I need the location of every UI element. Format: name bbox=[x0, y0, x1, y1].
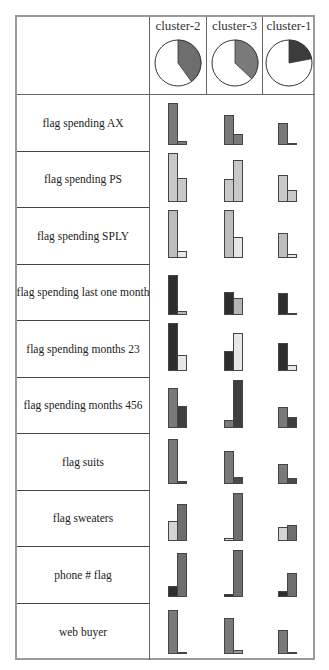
bar-cluster-2-b bbox=[177, 355, 187, 371]
bar-cluster-2-b bbox=[177, 406, 187, 428]
row-label: flag suits bbox=[17, 434, 150, 491]
bar-cluster-1-b bbox=[287, 313, 297, 315]
row-label: flag spending months 23 bbox=[17, 321, 150, 378]
pie-cluster-1 bbox=[264, 38, 314, 88]
bar-cluster-1-a bbox=[278, 123, 288, 145]
bar-cluster-3-b bbox=[233, 493, 243, 541]
bar-cluster-2-b bbox=[177, 553, 187, 597]
bar-cluster-3-b bbox=[233, 333, 243, 371]
header-cluster-1: cluster-1 bbox=[263, 17, 315, 95]
row-label: flag spending PS bbox=[17, 152, 150, 209]
row-label: flag spending AX bbox=[17, 95, 150, 152]
cluster-label: cluster-2 bbox=[150, 18, 206, 34]
cluster-label: cluster-3 bbox=[207, 18, 262, 34]
bar-cluster-2-b bbox=[177, 481, 187, 484]
bar-cluster-2-a bbox=[168, 439, 178, 484]
pie-cluster-3 bbox=[210, 38, 260, 88]
bar-cluster-3-b bbox=[233, 160, 243, 202]
bar-cluster-2-b bbox=[177, 141, 187, 145]
bar-cluster-3-b bbox=[233, 477, 243, 484]
bar-cluster-2-b bbox=[177, 251, 187, 258]
bar-cluster-1-a bbox=[278, 630, 288, 654]
row-label: flag spending last one month bbox=[17, 265, 150, 322]
bar-cluster-2-b bbox=[177, 652, 187, 654]
pie-slice bbox=[289, 40, 312, 63]
bar-cluster-1-b bbox=[287, 652, 297, 654]
bar-cluster-1-b bbox=[287, 525, 297, 541]
bar-cluster-1-b bbox=[287, 143, 297, 145]
cluster-profile-table: cluster-2 cluster-3 cluster-1 flag spend… bbox=[15, 15, 315, 660]
bar-cluster-1-b bbox=[287, 573, 297, 597]
bar-cluster-3-b bbox=[233, 134, 243, 145]
bar-cluster-3-b bbox=[233, 380, 243, 428]
bars-area bbox=[150, 95, 315, 660]
bar-cluster-1-b bbox=[287, 254, 297, 258]
bar-cluster-3-b bbox=[233, 237, 243, 258]
header-corner bbox=[17, 17, 150, 95]
bar-cluster-2-a bbox=[168, 275, 178, 315]
row-label: flag spending SPLY bbox=[17, 208, 150, 265]
bar-cluster-1-b bbox=[287, 365, 297, 371]
header-cluster-3: cluster-3 bbox=[207, 17, 263, 95]
bar-cluster-3-b bbox=[233, 650, 243, 654]
bar-cluster-2-b bbox=[177, 311, 187, 315]
cluster-label: cluster-1 bbox=[263, 18, 315, 34]
bar-cluster-2-b bbox=[177, 178, 187, 202]
bar-cluster-1-a bbox=[278, 293, 288, 315]
bar-cluster-2-b bbox=[177, 504, 187, 541]
bar-cluster-2-a bbox=[168, 103, 178, 145]
bar-cluster-3-b bbox=[233, 298, 243, 315]
row-label: phone # flag bbox=[17, 547, 150, 604]
row-label: web buyer bbox=[17, 604, 150, 661]
bar-cluster-3-b bbox=[233, 550, 243, 597]
header-cluster-2: cluster-2 bbox=[150, 17, 207, 95]
bar-cluster-3-a bbox=[224, 618, 234, 654]
row-label: flag spending months 456 bbox=[17, 378, 150, 435]
row-label: flag sweaters bbox=[17, 491, 150, 548]
bar-cluster-2-a bbox=[168, 610, 178, 654]
pie-cluster-2 bbox=[153, 38, 203, 88]
bar-cluster-1-b bbox=[287, 190, 297, 202]
bar-cluster-1-b bbox=[287, 417, 297, 428]
bar-cluster-1-b bbox=[287, 478, 297, 484]
